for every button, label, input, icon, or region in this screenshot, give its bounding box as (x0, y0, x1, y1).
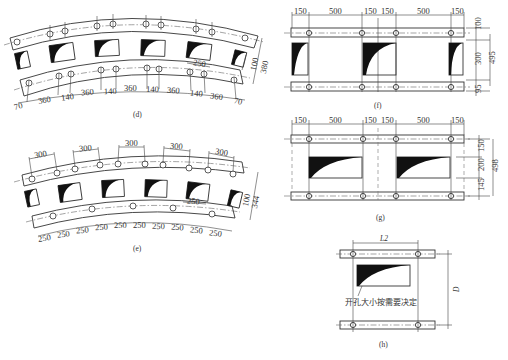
panel-d: 250 70 360 140 360 140 360 140 360 140 3… (4, 14, 270, 119)
dims-f-top: 150 500 150 150 500 150 (294, 6, 464, 16)
caption-f: (f) (374, 101, 382, 110)
svg-text:500: 500 (417, 6, 430, 16)
svg-text:360: 360 (37, 94, 51, 106)
svg-text:150: 150 (364, 115, 377, 125)
svg-text:500: 500 (417, 115, 430, 125)
dims-e-bottom: 250 250 250 250 250 250 250 250 250 250 (37, 220, 222, 244)
svg-text:140: 140 (60, 91, 74, 103)
svg-text:300: 300 (125, 138, 138, 148)
svg-text:300: 300 (79, 143, 93, 154)
svg-text:360: 360 (81, 86, 95, 97)
diagram-canvas: 250 70 360 140 360 140 360 140 360 140 3… (0, 0, 508, 360)
dim-h-width: L2 (379, 234, 388, 243)
bolt-holes-h (350, 251, 420, 327)
svg-text:150: 150 (294, 115, 307, 125)
svg-text:140: 140 (146, 84, 159, 94)
dims-g-top: 150 500 150 150 500 150 (294, 115, 464, 125)
svg-text:70: 70 (13, 100, 24, 112)
dim-h-height: D (452, 286, 461, 293)
svg-text:500: 500 (329, 115, 342, 125)
dim-d-inner: 250 (192, 57, 206, 69)
dim-g-right-1: 200 (476, 158, 486, 171)
openings-g (309, 157, 450, 178)
bolt-holes-g (306, 136, 453, 198)
svg-text:300: 300 (214, 146, 228, 158)
drawing: 250 70 360 140 360 140 360 140 360 140 3… (0, 0, 508, 360)
dim-g-right-0: 150 (476, 139, 486, 152)
dims-d-bottom: 70 360 140 360 140 360 140 360 140 360 7… (13, 83, 244, 112)
svg-text:150: 150 (294, 6, 307, 16)
dim-g-overall: 498 (490, 159, 500, 172)
svg-text:150: 150 (451, 115, 464, 125)
bolt-holes-e-top (29, 161, 236, 182)
bolt-holes-f (306, 30, 453, 89)
dim-d-right-large: 380 (258, 60, 270, 75)
note-opening-size: 开孔大小按需要决定 (345, 297, 417, 307)
svg-text:250: 250 (95, 222, 108, 233)
panel-h: L2 D 开孔大小按需要决定 (h) (336, 234, 461, 349)
caption-g: (g) (376, 213, 385, 222)
caption-h: (h) (379, 340, 388, 349)
dim-e-right-large: 344 (249, 194, 261, 209)
panel-g: 150 500 150 150 500 150 150 200 145 498 … (284, 115, 500, 222)
opening-h (357, 265, 410, 296)
svg-text:300: 300 (33, 148, 47, 160)
svg-text:250: 250 (37, 232, 51, 244)
caption-e: (e) (133, 244, 142, 253)
svg-text:70: 70 (233, 95, 243, 107)
svg-text:150: 150 (381, 6, 394, 16)
svg-text:250: 250 (209, 227, 223, 239)
panel-e: 300 300 300 300 300 250 250 250 250 250 … (14, 138, 261, 253)
svg-text:250: 250 (133, 220, 146, 230)
svg-text:250: 250 (114, 220, 127, 230)
dim-e-inner: 250 (187, 195, 201, 206)
dim-g-right-2: 145 (476, 178, 486, 191)
svg-text:140: 140 (104, 86, 117, 96)
caption-d: (d) (133, 110, 142, 119)
svg-text:250: 250 (171, 222, 184, 233)
svg-text:150: 150 (381, 115, 394, 125)
svg-text:300: 300 (170, 140, 184, 151)
openings-f (292, 43, 463, 75)
svg-text:360: 360 (167, 85, 180, 96)
dim-f-right-1: 300 (473, 52, 483, 65)
svg-text:250: 250 (56, 228, 70, 239)
svg-text:250: 250 (152, 221, 165, 231)
svg-text:500: 500 (329, 6, 342, 16)
svg-text:360: 360 (209, 90, 223, 102)
svg-text:150: 150 (364, 6, 377, 16)
svg-text:360: 360 (124, 83, 137, 93)
svg-text:250: 250 (190, 224, 204, 235)
dim-f-overall: 495 (487, 51, 497, 64)
svg-text:150: 150 (451, 6, 464, 16)
svg-text:250: 250 (76, 224, 90, 235)
panel-f: 150 500 150 150 500 150 100 300 95 495 (… (284, 6, 497, 110)
dim-f-right-2: 95 (473, 85, 483, 94)
dim-f-right-0: 100 (473, 17, 483, 30)
svg-text:140: 140 (190, 88, 204, 99)
